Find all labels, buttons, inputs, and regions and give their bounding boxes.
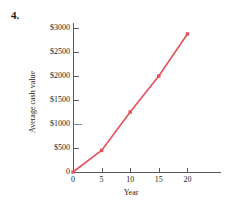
figure-container: 4. 0$500$1000$1500$2000$2500$3000 051015… (0, 0, 242, 210)
chart-plot-area: 0$500$1000$1500$2000$2500$3000 05101520 … (0, 0, 242, 210)
data-point-marker (129, 110, 132, 113)
data-point-marker (186, 32, 189, 35)
series-line-average-cash-value (73, 34, 187, 172)
y-axis-title: Average cash value (29, 57, 37, 147)
series-markers (71, 32, 189, 173)
x-axis-title: Year (73, 189, 189, 197)
data-point-marker (100, 149, 103, 152)
data-point-marker (157, 74, 160, 77)
data-point-marker (71, 170, 74, 173)
